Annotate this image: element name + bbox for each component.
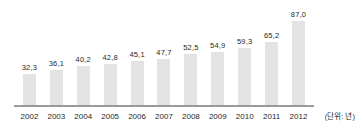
unit-label: (단위: 년) xyxy=(325,110,355,121)
bar-value-label: 32,3 xyxy=(22,63,37,72)
bar-value-label: 36,1 xyxy=(49,59,64,68)
bar-group-2002: 32,3 xyxy=(16,63,43,105)
x-tick-label-2004: 2004 xyxy=(70,112,97,121)
bar-2004 xyxy=(77,66,90,105)
bar-group-2007: 47,7 xyxy=(151,48,178,105)
bar-2002 xyxy=(23,74,36,105)
x-tick-label-2012: 2012 xyxy=(285,112,312,121)
bar-2005 xyxy=(104,64,117,105)
bar-value-label: 47,7 xyxy=(156,48,171,57)
bar-2011 xyxy=(265,42,278,105)
bar-group-2006: 45,1 xyxy=(124,50,151,105)
x-tick-label-2003: 2003 xyxy=(43,112,70,121)
bar-group-2012: 87,0 xyxy=(285,10,312,105)
x-axis-labels: 2002200320042005200620072008200920102011… xyxy=(16,112,312,121)
bar-2012 xyxy=(292,21,305,105)
bar-2009 xyxy=(211,52,224,105)
bar-2007 xyxy=(157,59,170,105)
x-tick-label-2006: 2006 xyxy=(124,112,151,121)
bar-group-2011: 65,2 xyxy=(258,31,285,105)
bar-value-label: 65,2 xyxy=(264,31,279,40)
x-tick-label-2008: 2008 xyxy=(177,112,204,121)
x-tick-label-2005: 2005 xyxy=(97,112,124,121)
bar-value-label: 59,3 xyxy=(237,37,252,46)
bar-value-label: 52,5 xyxy=(183,43,198,52)
x-tick-label-2009: 2009 xyxy=(204,112,231,121)
x-tick-label-2010: 2010 xyxy=(231,112,258,121)
bar-value-label: 54,9 xyxy=(210,41,225,50)
bar-group-2010: 59,3 xyxy=(231,37,258,105)
bar-group-2004: 40,2 xyxy=(70,55,97,105)
bar-value-label: 45,1 xyxy=(129,50,144,59)
bar-chart: 32,336,140,242,845,147,752,554,959,365,2… xyxy=(0,0,357,127)
bar-value-label: 42,8 xyxy=(102,53,117,62)
bar-group-2008: 52,5 xyxy=(177,43,204,105)
plot-area: 32,336,140,242,845,147,752,554,959,365,2… xyxy=(16,8,312,105)
bar-2010 xyxy=(238,48,251,105)
x-tick-label-2007: 2007 xyxy=(151,112,178,121)
bar-2006 xyxy=(131,61,144,105)
bar-value-label: 40,2 xyxy=(76,55,91,64)
x-axis-line xyxy=(14,105,314,107)
bar-group-2009: 54,9 xyxy=(204,41,231,105)
x-tick-label-2011: 2011 xyxy=(258,112,285,121)
bar-group-2003: 36,1 xyxy=(43,59,70,105)
bar-2003 xyxy=(50,70,63,105)
bar-value-label: 87,0 xyxy=(291,10,306,19)
bar-2008 xyxy=(184,54,197,105)
x-tick-label-2002: 2002 xyxy=(16,112,43,121)
bar-group-2005: 42,8 xyxy=(97,53,124,105)
